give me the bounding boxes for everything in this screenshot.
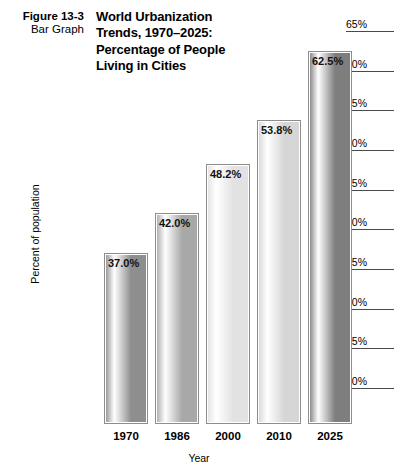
bar-value-label: 53.8% bbox=[261, 124, 292, 136]
x-axis-labels: 19701986200020102025 bbox=[0, 430, 398, 450]
bar: 53.8% bbox=[257, 120, 301, 424]
bar-series: 37.0%42.0%48.2%53.8%62.5% bbox=[0, 0, 398, 471]
bar-value-label: 42.0% bbox=[159, 217, 190, 229]
bar: 62.5% bbox=[308, 51, 352, 424]
bar-value-label: 37.0% bbox=[108, 257, 139, 269]
bar: 37.0% bbox=[104, 253, 148, 424]
figure-container: Figure 13-3 Bar Graph World Urbanization… bbox=[0, 0, 398, 471]
bar-value-label: 48.2% bbox=[210, 168, 241, 180]
bar: 48.2% bbox=[206, 164, 250, 424]
bar-value-label: 62.5% bbox=[312, 55, 343, 67]
plot-area: Percent of population 65%60%55%50%45%40%… bbox=[0, 0, 398, 471]
bar: 42.0% bbox=[155, 213, 199, 424]
x-axis-title: Year bbox=[0, 452, 398, 464]
x-axis-label: 2025 bbox=[300, 430, 360, 442]
